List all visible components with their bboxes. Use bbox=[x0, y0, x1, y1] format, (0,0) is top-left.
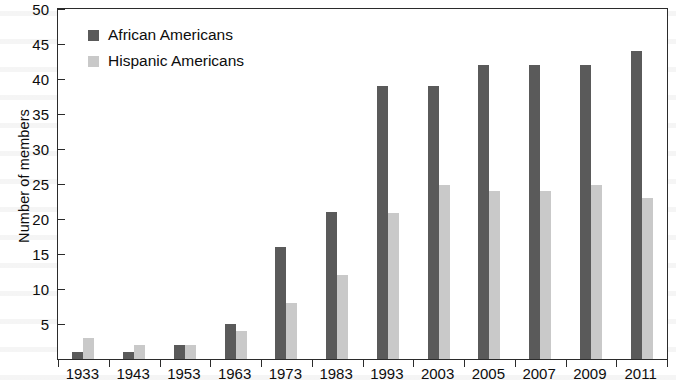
x-tick-mark bbox=[160, 359, 161, 367]
bar bbox=[72, 352, 83, 359]
y-tick-mark bbox=[58, 149, 65, 150]
bar bbox=[478, 65, 489, 359]
x-tick-mark bbox=[210, 359, 211, 367]
y-tick-mark bbox=[58, 184, 65, 185]
x-tick-label: 1943 bbox=[116, 366, 149, 381]
y-tick-label: 40 bbox=[32, 72, 58, 87]
legend-swatch-icon bbox=[88, 30, 99, 41]
bar bbox=[185, 345, 196, 359]
bar bbox=[591, 185, 602, 359]
legend-label: African Americans bbox=[108, 26, 233, 44]
y-axis-title: Number of members bbox=[16, 66, 32, 286]
y-tick-label: 45 bbox=[32, 37, 58, 52]
legend: African AmericansHispanic Americans bbox=[88, 22, 244, 74]
y-tick-label: 35 bbox=[32, 107, 58, 122]
bar bbox=[123, 352, 134, 359]
bar bbox=[489, 191, 500, 359]
y-tick-mark bbox=[58, 219, 65, 220]
legend-label: Hispanic Americans bbox=[108, 52, 244, 70]
y-tick-label: 5 bbox=[41, 317, 58, 332]
x-tick-label: 1973 bbox=[269, 366, 302, 381]
x-tick-mark bbox=[109, 359, 110, 367]
x-tick-label: 2005 bbox=[472, 366, 505, 381]
y-tick-mark bbox=[58, 254, 65, 255]
x-tick-mark bbox=[261, 359, 262, 367]
x-tick-label: 1983 bbox=[319, 366, 352, 381]
bar bbox=[275, 247, 286, 359]
legend-item: Hispanic Americans bbox=[88, 48, 244, 74]
bar bbox=[236, 331, 247, 359]
x-tick-mark bbox=[363, 359, 364, 367]
y-tick-label: 30 bbox=[32, 142, 58, 157]
bar bbox=[326, 212, 337, 359]
bar bbox=[286, 303, 297, 359]
bar bbox=[529, 65, 540, 359]
y-tick-mark bbox=[58, 324, 65, 325]
x-tick-label: 1993 bbox=[370, 366, 403, 381]
bar bbox=[337, 275, 348, 359]
x-tick-label: 1963 bbox=[218, 366, 251, 381]
bar bbox=[428, 86, 439, 359]
x-tick-label: 2009 bbox=[573, 366, 606, 381]
x-tick-label: 1953 bbox=[167, 366, 200, 381]
bar bbox=[580, 65, 591, 359]
y-tick-label: 10 bbox=[32, 282, 58, 297]
x-tick-mark bbox=[667, 359, 668, 367]
bar bbox=[377, 86, 388, 359]
x-tick-mark bbox=[413, 359, 414, 367]
bar bbox=[388, 213, 399, 359]
x-tick-mark bbox=[515, 359, 516, 367]
bar bbox=[225, 324, 236, 359]
legend-swatch-icon bbox=[88, 56, 99, 67]
legend-item: African Americans bbox=[88, 22, 244, 48]
x-tick-label: 2011 bbox=[624, 366, 656, 381]
bar bbox=[642, 198, 653, 359]
x-tick-mark bbox=[464, 359, 465, 367]
y-tick-mark bbox=[58, 79, 65, 80]
bar bbox=[174, 345, 185, 359]
x-tick-label: 1933 bbox=[66, 366, 99, 381]
bar bbox=[439, 185, 450, 359]
y-tick-mark bbox=[58, 114, 65, 115]
y-tick-label: 20 bbox=[32, 212, 58, 227]
y-tick-mark bbox=[58, 289, 65, 290]
y-tick-label: 15 bbox=[32, 247, 58, 262]
bar bbox=[631, 51, 642, 359]
x-tick-mark bbox=[58, 359, 59, 367]
y-tick-mark bbox=[58, 44, 65, 45]
y-tick-label: 25 bbox=[32, 177, 58, 192]
x-tick-mark bbox=[566, 359, 567, 367]
x-tick-mark bbox=[312, 359, 313, 367]
x-tick-mark bbox=[616, 359, 617, 367]
bar bbox=[540, 191, 551, 359]
y-tick-mark bbox=[58, 9, 65, 10]
x-tick-label: 2003 bbox=[421, 366, 454, 381]
bar bbox=[83, 338, 94, 359]
y-tick-label: 50 bbox=[32, 2, 58, 17]
x-tick-label: 2007 bbox=[522, 366, 555, 381]
bar-chart: Number of members 5101520253035404550 19… bbox=[0, 0, 676, 390]
bar bbox=[134, 345, 145, 359]
